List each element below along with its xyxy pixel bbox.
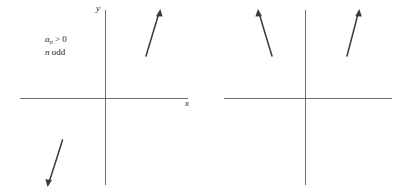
relation-symbol: > [55,34,60,44]
annotation-odd-line2: n odd [45,46,67,59]
branch-upper-right [146,9,163,56]
branch-lower-left [45,140,62,187]
annotation-odd-line1: an > 0 [45,33,67,46]
branch-upper-right [347,9,362,56]
branch-lower-left-stroke [50,140,63,181]
degree-parity: odd [52,47,66,57]
branch-upper-right-stroke [146,16,158,57]
panel-even-degree: y x an > 0 n even [204,0,408,194]
y-axis-label-odd: y [96,4,100,13]
panel-odd-degree: y x an > 0 n odd [0,0,204,194]
relation-value: 0 [62,34,67,44]
branch-upper-left [255,9,272,56]
panel-even-graph [204,0,408,194]
degree-symbol: n [45,47,50,57]
leading-coefficient-subscript: n [50,38,53,45]
annotation-odd: an > 0 n odd [45,33,67,59]
arrow-head-down-left-icon [45,179,52,187]
arrow-head-up-right-icon [156,9,163,17]
branch-upper-left-stroke [260,16,272,57]
end-behavior-figure: y x an > 0 n odd [0,0,408,194]
arrow-head-up-right-icon [355,9,362,17]
arrow-head-up-left-icon [255,9,262,17]
branch-upper-right-stroke [347,16,358,57]
panel-odd-graph [0,0,204,194]
x-axis-label-odd: x [185,99,189,108]
